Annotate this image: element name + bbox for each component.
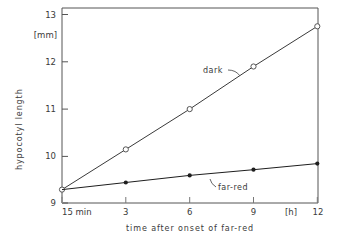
y-tick-label-12: 12 — [45, 57, 56, 67]
y-tick-label-13: 13 — [45, 10, 56, 20]
series-annotation-dark-leader — [228, 70, 240, 76]
y-tick-label-11: 11 — [45, 104, 56, 114]
series-annotation-dark: dark — [203, 66, 223, 75]
y-tick-label-10: 10 — [45, 151, 56, 161]
chart-figure: 13 12 11 10 9 [mm] hypocotyl length 15 m… — [0, 0, 340, 240]
series-annotation-far-red-leader — [210, 179, 216, 187]
y-axis-title: hypocotyl length — [15, 88, 24, 170]
y-axis-ticks — [62, 15, 68, 204]
x-tick-label-6: 6 — [187, 207, 192, 217]
x-axis-unit-label: [h] — [285, 207, 297, 217]
x-tick-label-15min: 15 min — [62, 207, 92, 217]
x-axis-ticks — [62, 197, 317, 203]
y-axis-unit-label: [mm] — [34, 30, 57, 40]
series-annotation-far-red: far-red — [218, 183, 248, 192]
x-tick-label-9: 9 — [251, 207, 256, 217]
x-tick-label-12: 12 — [313, 207, 324, 217]
x-tick-label-3: 3 — [123, 207, 128, 217]
y-tick-label-9: 9 — [51, 198, 56, 208]
x-axis-title: time after onset of far-red — [126, 224, 254, 233]
hypocotyl-length-line-chart: 13 12 11 10 9 [mm] hypocotyl length 15 m… — [0, 0, 340, 240]
